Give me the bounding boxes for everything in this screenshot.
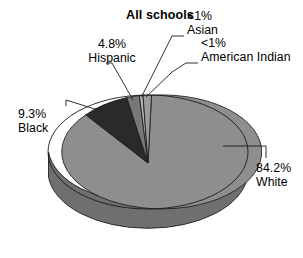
label-asian-percent: <1% [187, 9, 212, 23]
label-hispanic-percent: 4.8% [98, 37, 126, 51]
label-white-percent: 84.2% [256, 161, 291, 175]
leader-line-black [66, 100, 98, 110]
label-white-name: White [256, 175, 288, 189]
label-black-percent: 9.3% [18, 107, 46, 121]
pie-chart-figure: All schools 4.8% Hispanic <1% Asian <1% … [0, 0, 303, 258]
leader-line-hispanic [106, 63, 133, 100]
pie-chart-svg: All schools 4.8% Hispanic <1% Asian <1% … [0, 0, 303, 258]
label-black-name: Black [18, 121, 49, 135]
label-hispanic-name: Hispanic [88, 51, 136, 65]
label-asian-name: Asian [187, 23, 218, 37]
leader-line-american-indian [146, 63, 198, 97]
label-american-indian-name: American Indian [201, 50, 291, 64]
label-american-indian-percent: <1% [201, 36, 226, 50]
leader-line-asian [142, 36, 185, 97]
chart-title: All schools [126, 8, 194, 22]
